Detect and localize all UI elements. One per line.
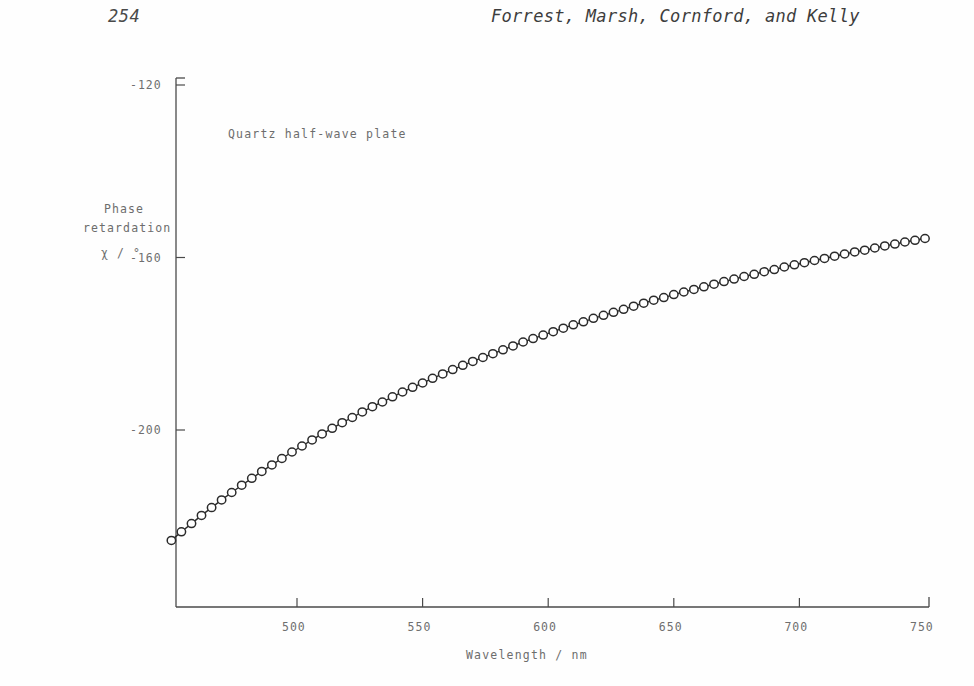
x-tick-label: 500: [282, 620, 306, 634]
x-tick-label: 600: [533, 620, 557, 634]
y-axis-label-line-1: Phase: [104, 202, 144, 216]
chart-axes: [176, 78, 929, 607]
x-tick-label: 750: [910, 620, 934, 634]
chart-tick-marks: [176, 85, 799, 607]
document-page: 254 Forrest, Marsh, Cornford, and Kelly …: [0, 0, 974, 686]
x-axis-label: Wavelength / nm: [466, 648, 588, 662]
y-tick-label: -200: [130, 423, 162, 437]
x-tick-label: 650: [659, 620, 683, 634]
data-markers: [167, 235, 929, 545]
figure-phase-retardation: Quartz half-wave plate Phase retardation…: [0, 0, 974, 686]
chart-canvas: [0, 0, 974, 686]
x-tick-label: 550: [408, 620, 432, 634]
x-tick-label: 700: [784, 620, 808, 634]
chart-annotation: Quartz half-wave plate: [228, 127, 407, 141]
y-tick-label: -120: [130, 78, 162, 92]
y-tick-label: -160: [130, 251, 162, 265]
y-axis-label-line-2: retardation: [83, 221, 171, 235]
data-line: [171, 239, 925, 541]
